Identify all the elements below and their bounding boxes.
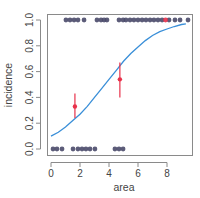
data-point	[178, 18, 183, 23]
data-point	[121, 147, 126, 152]
data-point	[55, 147, 60, 152]
x-tick-label: 4	[106, 168, 112, 179]
data-point	[163, 18, 168, 23]
x-tick-label: 2	[77, 168, 83, 179]
data-point	[71, 147, 76, 152]
x-tick-label: 6	[135, 168, 141, 179]
y-axis-label: incidence	[2, 63, 14, 108]
y-tick-label: 0.4	[24, 90, 35, 104]
data-point	[76, 18, 81, 23]
y-tick-label: 0.0	[24, 142, 35, 156]
data-point	[82, 18, 87, 23]
data-point	[88, 147, 93, 152]
y-tick-label: 0.8	[24, 38, 35, 52]
data-point	[105, 18, 110, 23]
x-tick-label: 8	[164, 168, 170, 179]
y-tick-label: 0.6	[24, 64, 35, 78]
data-point	[173, 18, 178, 23]
y-tick-label: 0.2	[24, 116, 35, 130]
data-point	[186, 18, 191, 23]
data-point	[60, 147, 65, 152]
data-point	[93, 147, 98, 152]
y-axis: 0.00.20.40.60.81.0	[24, 13, 41, 156]
binned-mean-point	[73, 104, 77, 108]
binned-mean-point	[118, 77, 122, 81]
y-tick-label: 1.0	[24, 13, 35, 27]
x-tick-label: 0	[48, 168, 54, 179]
x-axis-label: area	[113, 181, 134, 193]
x-axis: 02468	[48, 163, 170, 180]
logistic-incidence-chart: 02468 0.00.20.40.60.81.0 area incidence	[0, 0, 200, 198]
series-layer	[51, 18, 191, 152]
